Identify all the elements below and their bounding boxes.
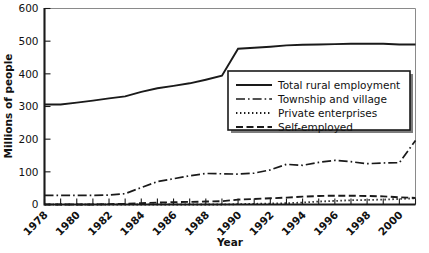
legend-label: Self-employed	[278, 121, 353, 133]
legend-label: Total rural employment	[277, 79, 400, 91]
y-tick-label: 500	[18, 35, 38, 47]
y-tick-label: 300	[18, 100, 38, 112]
y-tick-label: 400	[18, 68, 38, 80]
y-tick-label: 100	[18, 166, 38, 178]
line-chart: 0100200300400500600 19781980198219841986…	[0, 0, 429, 253]
legend-label: Township and village	[277, 93, 387, 105]
legend-label: Private enterprises	[278, 107, 377, 119]
y-tick-label: 600	[18, 2, 38, 14]
chart-container: 0100200300400500600 19781980198219841986…	[0, 0, 429, 253]
y-axis-title: Millions of people	[2, 54, 14, 159]
y-tick-label: 200	[18, 133, 38, 145]
y-tick-label: 0	[32, 198, 39, 210]
x-axis-title: Year	[216, 236, 244, 248]
chart-legend: Total rural employmentTownship and villa…	[228, 71, 413, 133]
